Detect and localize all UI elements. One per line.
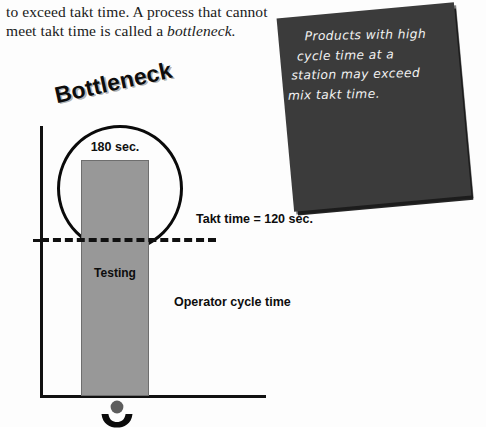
operator-icon [99, 400, 135, 428]
takt-time-dashed-line [41, 238, 216, 242]
paragraph-emphasis-term: bottleneck. [167, 22, 236, 39]
y-axis-line [40, 126, 43, 398]
sticky-note-surface: Products with high cycle time at a stati… [277, 2, 472, 211]
x-axis-line [40, 395, 266, 398]
sticky-note-text: Products with high cycle time at a stati… [290, 24, 456, 105]
takt-time-label: Takt time = 120 sec. [196, 212, 313, 226]
bar-value-label: 180 sec. [81, 140, 149, 154]
operator-cycle-time-label: Operator cycle time [174, 295, 291, 309]
chart-title: Bottleneck [52, 57, 175, 109]
bar-category-label: Testing [81, 266, 149, 280]
bottleneck-bar-chart: Bottleneck 180 sec. Testing Takt time = … [0, 70, 300, 427]
sticky-note-line-4: mix takt time. [288, 83, 456, 106]
body-paragraph: to exceed takt time. A process that cann… [6, 2, 278, 40]
sticky-note: Products with high cycle time at a stati… [283, 4, 479, 224]
paragraph-line-1: to exceed takt time. A process that [6, 3, 222, 20]
